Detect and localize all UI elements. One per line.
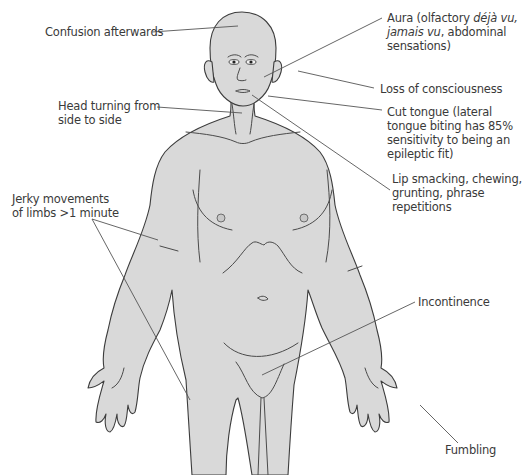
label-line: Head turning from bbox=[58, 99, 160, 113]
aura-text: , abdominal bbox=[441, 25, 507, 39]
label-line: side to side bbox=[58, 113, 160, 127]
left-ear bbox=[204, 61, 214, 82]
leader-loss-consciousness bbox=[298, 71, 374, 88]
aura-text-italic: jamais vu bbox=[387, 25, 441, 39]
leader-cut-tongue bbox=[268, 96, 382, 110]
body-figure bbox=[88, 12, 397, 475]
label-confusion-afterwards: Confusion afterwards bbox=[45, 25, 163, 39]
right-pupil bbox=[249, 60, 252, 63]
label-jerky-movements: Jerky movements of limbs >1 minute bbox=[12, 192, 119, 220]
aura-text-italic: déjà vu, bbox=[473, 11, 517, 25]
right-nipple bbox=[300, 214, 308, 222]
label-aura: Aura (olfactory déjà vu, jamais vu, abdo… bbox=[387, 11, 518, 53]
label-line: Aura (olfactory déjà vu, bbox=[387, 11, 518, 25]
label-head-turning: Head turning from side to side bbox=[58, 99, 160, 127]
label-line: tongue biting has 85% bbox=[387, 119, 513, 133]
label-loss-of-consciousness: Loss of consciousness bbox=[380, 82, 502, 96]
label-lip-smacking: Lip smacking, chewing, grunting, phrase … bbox=[392, 172, 522, 214]
label-line: grunting, phrase bbox=[392, 186, 522, 200]
left-nipple bbox=[217, 214, 225, 222]
label-line: repetitions bbox=[392, 200, 522, 214]
right-ear bbox=[272, 61, 282, 82]
label-cut-tongue: Cut tongue (lateral tongue biting has 85… bbox=[387, 105, 513, 161]
label-line: Lip smacking, chewing, bbox=[392, 172, 522, 186]
leader-head-turning bbox=[157, 107, 242, 113]
label-fumbling: Fumbling bbox=[445, 443, 496, 457]
label-line: sensitivity to being an bbox=[387, 133, 513, 147]
label-line: sensations) bbox=[387, 39, 518, 53]
label-line: Jerky movements bbox=[12, 192, 119, 206]
left-pupil bbox=[232, 60, 235, 63]
label-line: jamais vu, abdominal bbox=[387, 25, 518, 39]
label-line: Cut tongue (lateral bbox=[387, 105, 513, 119]
leader-aura bbox=[264, 18, 382, 77]
label-incontinence: Incontinence bbox=[418, 295, 490, 309]
head-outline bbox=[210, 12, 276, 106]
leader-fumbling bbox=[420, 405, 458, 443]
label-line: of limbs >1 minute bbox=[12, 206, 119, 220]
torso-outline bbox=[88, 92, 397, 475]
aura-text: Aura (olfactory bbox=[387, 11, 473, 25]
label-line: epileptic fit) bbox=[387, 147, 513, 161]
